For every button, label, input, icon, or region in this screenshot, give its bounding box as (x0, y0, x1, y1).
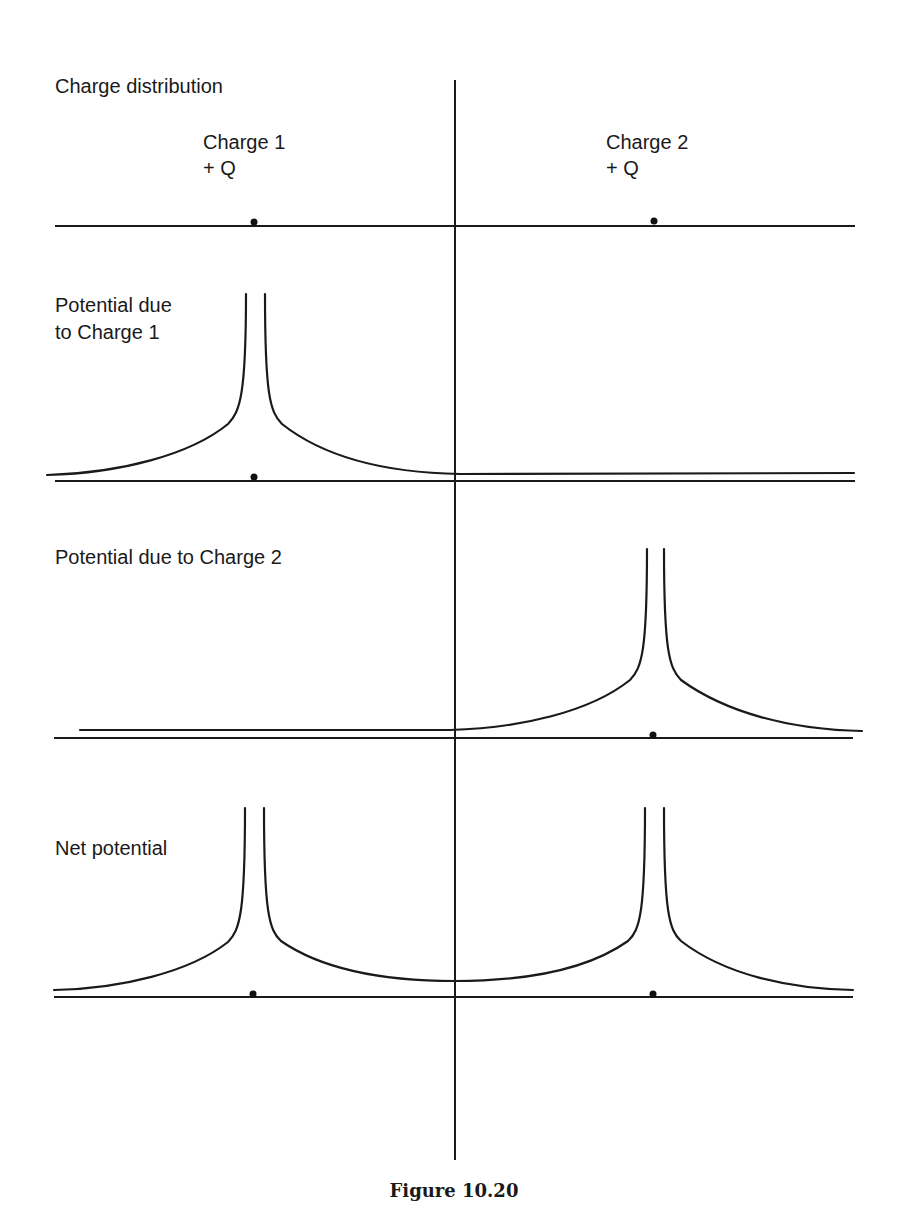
panel-title-potential-charge-2: Potential due to Charge 2 (55, 545, 282, 569)
charge-2-dot (651, 218, 658, 225)
charge-1-value: + Q (203, 156, 236, 180)
charge-2-value: + Q (606, 156, 639, 180)
panel-title-charge-distribution: Charge distribution (55, 74, 223, 98)
potential-diagram (0, 0, 908, 1227)
panel-title-potential-charge-1-line2: to Charge 1 (55, 320, 160, 344)
panel-title-potential-charge-1-line1: Potential due (55, 293, 172, 317)
panel-title-net-potential: Net potential (55, 836, 167, 860)
potential-curve-1 (47, 294, 854, 475)
charge-1-dot (251, 474, 258, 481)
panel-potential-charge-1 (47, 294, 855, 481)
charge-1-dot (251, 219, 258, 226)
charge-1-label: Charge 1 (203, 130, 285, 154)
charge-2-label: Charge 2 (606, 130, 688, 154)
charge-2-dot (650, 732, 657, 739)
potential-curve-2 (80, 549, 862, 731)
figure-caption: Figure 10.20 (0, 1180, 908, 1201)
charge-1-dot (250, 991, 257, 998)
net-potential-curve (54, 808, 853, 990)
panel-potential-charge-2 (54, 549, 862, 739)
charge-2-dot (650, 991, 657, 998)
panel-net-potential (54, 808, 853, 998)
